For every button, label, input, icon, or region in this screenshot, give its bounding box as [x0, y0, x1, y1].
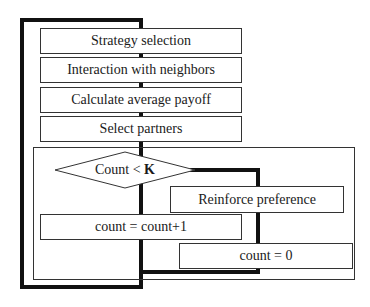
step-count-increment: count = count+1	[40, 214, 242, 240]
decision-k: K	[144, 162, 155, 178]
step-label: count = 0	[240, 248, 293, 264]
decision-count-lt-k: Count < K	[75, 160, 175, 180]
step-count-reset: count = 0	[179, 243, 353, 269]
step-reinforce-preference: Reinforce preference	[170, 186, 344, 213]
step-label: Reinforce preference	[198, 192, 316, 208]
step-label: count = count+1	[95, 219, 187, 235]
decision-label: Count <	[95, 162, 144, 178]
